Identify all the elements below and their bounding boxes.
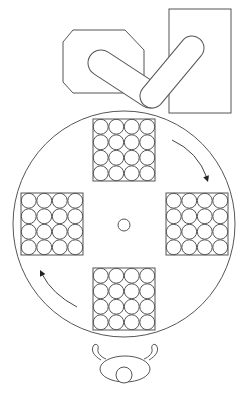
operator-left-arm: [92, 344, 106, 360]
tray-right: [166, 193, 228, 255]
operator-head: [116, 367, 132, 383]
tray-left: [21, 193, 83, 255]
workcell-diagram: [0, 0, 243, 394]
operator-right-arm: [144, 344, 158, 360]
tray-bottom: [93, 268, 155, 330]
center-hub: [118, 219, 130, 231]
diagram-canvas: [0, 0, 243, 394]
operator: [92, 344, 157, 383]
tray-top: [93, 119, 155, 181]
